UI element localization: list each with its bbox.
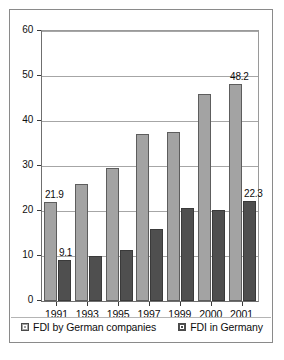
bar-value-label: 21.9 bbox=[45, 190, 64, 200]
y-axis-tick-label: 0 bbox=[7, 295, 33, 305]
x-axis-tick-mark bbox=[56, 302, 57, 306]
bar-group bbox=[165, 31, 196, 301]
bar-2000-fdi-in-germany bbox=[212, 210, 225, 301]
chart-frame: 0102030405060 21.99.148.222.3 1991199319… bbox=[9, 9, 273, 343]
chart-legend: FDI by German companiesFDI in Germany bbox=[19, 318, 265, 335]
bar-1995-fdi-in-germany bbox=[120, 250, 133, 301]
y-axis-tick-label: 30 bbox=[7, 160, 33, 170]
y-axis-tick-label: 40 bbox=[7, 115, 33, 125]
bar-1991-fdi-in-germany bbox=[58, 260, 71, 301]
bar-1993-fdi-by-german-companies bbox=[75, 184, 88, 301]
bar-1997-fdi-by-german-companies bbox=[136, 134, 149, 301]
bar-group bbox=[196, 31, 227, 301]
x-axis-tick-mark bbox=[180, 302, 181, 306]
plot-area: 21.99.148.222.3 bbox=[41, 30, 259, 302]
bar-1995-fdi-by-german-companies bbox=[106, 168, 119, 301]
y-axis-tick-label: 10 bbox=[7, 250, 33, 260]
x-axis-tick-mark bbox=[118, 302, 119, 306]
legend-entry-fdi-by-german-companies: FDI by German companies bbox=[21, 321, 156, 333]
bar-1999-fdi-in-germany bbox=[181, 208, 194, 301]
legend-entry-fdi-in-germany: FDI in Germany bbox=[178, 321, 263, 333]
bar-2001-fdi-in-germany bbox=[243, 201, 256, 301]
bar-1993-fdi-in-germany bbox=[89, 256, 102, 301]
y-axis: 0102030405060 bbox=[10, 30, 41, 302]
x-axis-tick-mark bbox=[242, 302, 243, 306]
bar-group: 21.99.1 bbox=[42, 31, 73, 301]
bar-group bbox=[135, 31, 166, 301]
bar-group: 48.222.3 bbox=[227, 31, 258, 301]
bar-value-label: 22.3 bbox=[244, 189, 263, 199]
bar-1997-fdi-in-germany bbox=[150, 229, 163, 301]
legend-label: FDI in Germany bbox=[190, 321, 263, 333]
bar-1991-fdi-by-german-companies bbox=[44, 202, 57, 301]
bar-group bbox=[104, 31, 135, 301]
y-axis-tick-label: 50 bbox=[7, 70, 33, 80]
x-axis-tick-mark bbox=[87, 302, 88, 306]
y-axis-tick-label: 60 bbox=[7, 25, 33, 35]
bar-group bbox=[73, 31, 104, 301]
bar-value-label: 48.2 bbox=[230, 72, 249, 82]
x-axis-tick-mark bbox=[149, 302, 150, 306]
y-axis-tick-label: 20 bbox=[7, 205, 33, 215]
bar-value-label: 9.1 bbox=[59, 248, 72, 258]
x-axis-tick-mark bbox=[211, 302, 212, 306]
bar-2001-fdi-by-german-companies bbox=[229, 84, 242, 301]
bar-1999-fdi-by-german-companies bbox=[167, 132, 180, 301]
legend-label: FDI by German companies bbox=[33, 321, 156, 333]
bar-2000-fdi-by-german-companies bbox=[198, 94, 211, 301]
legend-swatch-icon bbox=[178, 323, 186, 331]
legend-swatch-icon bbox=[21, 323, 29, 331]
